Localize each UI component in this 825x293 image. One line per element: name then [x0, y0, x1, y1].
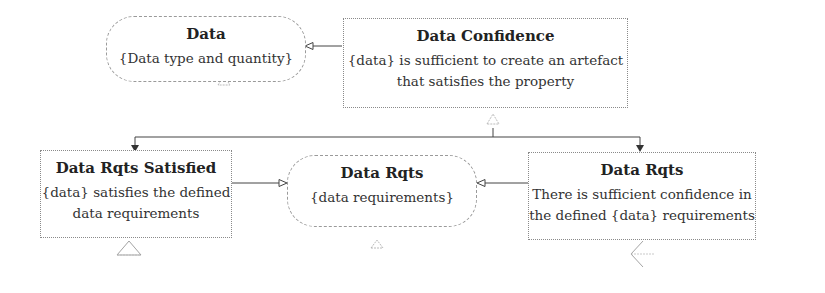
undeveloped-triangle-icon — [117, 241, 141, 255]
node-data-rqts-satisfied[interactable]: Data Rqts Satisfied {data} satisfies the… — [40, 150, 232, 238]
node-data[interactable]: Data {Data type and quantity} — [106, 16, 306, 82]
node-data-rqts-confidence[interactable]: Data Rqts There is sufficient confidence… — [528, 152, 756, 240]
node-body-line: the defined {data} requirements — [529, 205, 755, 226]
node-body-line: that satisfies the property — [344, 71, 627, 92]
node-body: {Data type and quantity} — [107, 48, 305, 69]
node-body: {data} is sufficient to create an artefa… — [344, 50, 627, 92]
node-body-line: {data} is sufficient to create an artefa… — [344, 50, 627, 71]
node-body-line: There is sufficient confidence in — [529, 184, 755, 205]
undeveloped-triangle-icon — [371, 240, 383, 248]
node-title: Data Rqts — [288, 164, 476, 182]
node-title: Data — [107, 25, 305, 43]
hollow-arrowhead-icon — [279, 180, 287, 187]
node-body-line: {data} satisfies the defined — [41, 182, 231, 203]
undeveloped-triangle-icon — [487, 114, 499, 124]
hollow-arrowhead-icon — [305, 43, 313, 50]
hollow-arrowhead-icon — [477, 180, 485, 187]
node-data-confidence[interactable]: Data Confidence {data} is sufficient to … — [343, 18, 628, 108]
node-body: There is sufficient confidence in the de… — [529, 184, 755, 226]
node-body: {data requirements} — [288, 187, 476, 208]
solid-arrowhead-icon — [636, 145, 644, 152]
node-body-line: data requirements — [41, 203, 231, 224]
node-body: {data} satisfies the defined data requir… — [41, 182, 231, 224]
node-data-rqts-context[interactable]: Data Rqts {data requirements} — [287, 155, 477, 227]
node-title: Data Confidence — [344, 27, 627, 45]
node-title: Data Rqts — [529, 161, 755, 179]
node-title: Data Rqts Satisfied — [41, 159, 231, 177]
